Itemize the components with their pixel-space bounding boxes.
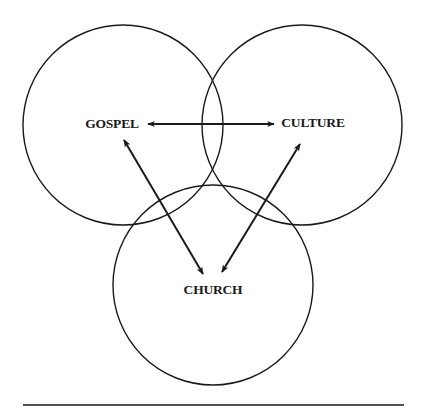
venn-diagram: GOSPEL CULTURE CHURCH (0, 0, 424, 410)
culture-label: CULTURE (281, 115, 344, 131)
gospel-label: GOSPEL (85, 116, 139, 132)
diagram-canvas (0, 0, 424, 410)
gospel-church-arrow (124, 140, 203, 274)
culture-church-arrow (222, 144, 300, 272)
church-label: CHURCH (184, 282, 243, 298)
